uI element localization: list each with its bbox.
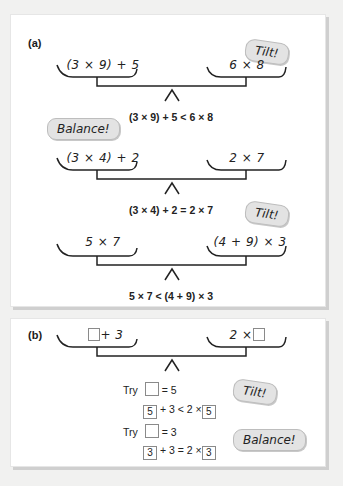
panel-b: (b) + 3 2 × Try = 5 5 + 3 < 2 ×5 Tilt! T… xyxy=(10,318,326,467)
try-label: Try xyxy=(123,426,138,438)
try-assignment: = 3 xyxy=(162,426,177,438)
balance-scale-icon xyxy=(11,285,325,385)
value-box: 3 xyxy=(202,446,216,460)
try-check: 3 + 3 = 2 ×3 xyxy=(143,444,216,460)
balance-scale-icon xyxy=(11,194,325,294)
balance-scale-icon xyxy=(11,15,325,115)
try-check: 5 + 3 < 2 ×5 xyxy=(143,403,216,419)
value-box: 5 xyxy=(143,405,157,419)
balance-scale-icon xyxy=(11,108,325,208)
unknown-box xyxy=(145,424,159,438)
check-expression: + 3 = 2 × xyxy=(160,444,202,456)
balance-bubble: Balance! xyxy=(233,429,306,451)
value-box: 5 xyxy=(202,405,216,419)
try-line: Try = 5 xyxy=(123,382,177,396)
unknown-box xyxy=(145,382,159,396)
try-label: Try xyxy=(123,384,138,396)
panel-a: (a) Tilt! (3 × 9) + 5 6 × 8 (3 × 9) + 5 … xyxy=(10,14,326,307)
check-expression: + 3 < 2 × xyxy=(160,403,202,415)
value-box: 3 xyxy=(143,446,157,460)
try-assignment: = 5 xyxy=(162,384,177,396)
try-line: Try = 3 xyxy=(123,424,177,438)
